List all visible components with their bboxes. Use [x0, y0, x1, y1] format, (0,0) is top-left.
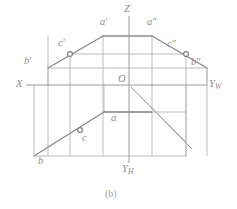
marker-c-front	[68, 52, 73, 57]
axis-label-yh: YH	[122, 164, 134, 175]
prime-mark-a-front: ′	[105, 16, 108, 27]
point-label-c-side: c″	[167, 39, 177, 50]
point-label-a-front: a′	[100, 17, 108, 28]
point-label-c-top: c	[82, 133, 87, 144]
prime-mark-c-front: ′	[63, 37, 66, 48]
point-markers-group	[68, 52, 189, 133]
prime-mark-b-front: ′	[29, 55, 32, 66]
prime-mark-c-side: ″	[172, 38, 177, 49]
top-view-left-slope	[34, 112, 104, 156]
axis-label-x: X	[16, 79, 23, 90]
origin-label-o: O	[118, 74, 126, 85]
prime-mark-b-side: ″	[196, 56, 201, 67]
point-label-b-top: b	[38, 156, 43, 167]
front-view-left-slope	[48, 36, 103, 68]
point-label-a-top: a	[111, 113, 116, 124]
prime-mark-a-side: ″	[152, 16, 157, 27]
point-label-b-front: b′	[24, 56, 32, 67]
axis-label-yw-subscript: W	[215, 82, 221, 91]
figure-caption: (b)	[105, 188, 117, 199]
axis-label-z: Z	[124, 4, 130, 15]
bisector-45-line	[131, 87, 192, 149]
marker-c-side	[184, 52, 189, 57]
point-label-b-side: b″	[191, 57, 201, 68]
axis-label-yw: YW	[209, 79, 222, 90]
point-label-c-front: c′	[58, 38, 66, 49]
axes-group	[26, 16, 207, 163]
point-label-a-side: a″	[147, 17, 157, 28]
projection-figure: X Z YW YH O a′ a″ c′ c″ b′ b″ a c b (b)	[0, 0, 237, 209]
drawing-canvas	[0, 0, 237, 209]
axis-label-yh-subscript: H	[128, 167, 134, 176]
